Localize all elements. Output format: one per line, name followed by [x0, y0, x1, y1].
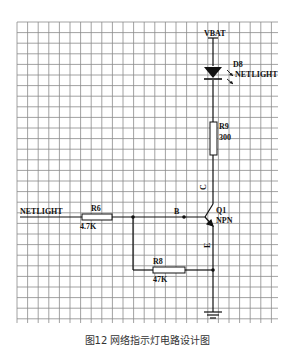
- r8-value: 47K: [153, 275, 168, 284]
- q1-ref: Q1: [216, 206, 226, 215]
- r6-value: 4.7K: [80, 222, 97, 231]
- base-node-dot: [182, 215, 186, 219]
- resistor-r8-icon: [153, 267, 185, 273]
- vbat-label: VBAT: [204, 29, 226, 38]
- q1-collector-label: C: [199, 184, 208, 190]
- transistor-q1-icon: [205, 204, 213, 226]
- q1-value: NPN: [216, 216, 233, 225]
- r8-ref: R8: [153, 257, 163, 266]
- r6-ref: R6: [91, 204, 101, 213]
- junction-dot: [131, 215, 135, 219]
- netlight-input-label: NETLIGHT: [20, 207, 63, 216]
- resistor-r6-icon: [82, 214, 112, 220]
- r9-ref: R9: [219, 122, 229, 131]
- d8-value: NETLIGHT: [235, 70, 278, 79]
- d8-ref: D8: [233, 60, 243, 69]
- q1-emitter-label: E: [203, 243, 212, 248]
- figure-caption: 图12 网络指示灯电路设计图: [0, 332, 295, 347]
- resistor-r9-icon: [210, 122, 217, 155]
- q1-base-label: B: [174, 207, 180, 216]
- r9-value: 300: [219, 133, 231, 142]
- ground-icon: [204, 312, 222, 318]
- emitter-junction-dot: [211, 268, 215, 272]
- circuit-diagram: VBAT D8 NETLIGHT R9 300 C Q1 NPN B E NET…: [0, 0, 295, 348]
